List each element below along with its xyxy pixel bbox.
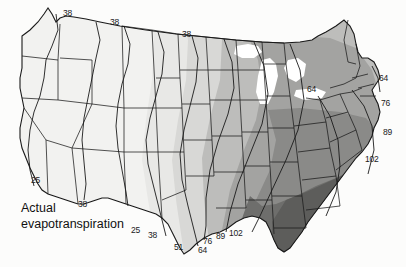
contour-label-102-nc: 102 xyxy=(365,155,379,164)
contour-label-89-va: 89 xyxy=(383,128,392,137)
map-caption: Actual evapotranspiration xyxy=(21,200,124,232)
contour-label-38-mt: 38 xyxy=(110,18,119,27)
contour-label-64-erie: 64 xyxy=(307,85,316,94)
contour-label-89-la: 89 xyxy=(216,232,225,241)
contour-label-76-tx: 76 xyxy=(203,237,212,246)
contour-label-38-nd: 38 xyxy=(182,30,191,39)
contour-label-38-tx: 38 xyxy=(148,231,157,240)
contour-label-64-tx: 64 xyxy=(198,246,207,255)
contour-label-25-tx: 25 xyxy=(131,226,140,235)
evapotranspiration-map-figure: 38 38 38 64 64 76 89 102 25 38 25 38 51 … xyxy=(0,0,406,267)
contour-label-51-tx: 51 xyxy=(174,243,183,252)
contour-label-25-ca: 25 xyxy=(31,176,40,185)
contour-label-76-mid: 76 xyxy=(381,99,390,108)
contour-label-102-la: 102 xyxy=(229,229,243,238)
contour-label-38-wa: 38 xyxy=(63,9,72,18)
contour-label-64-ne: 64 xyxy=(379,74,388,83)
